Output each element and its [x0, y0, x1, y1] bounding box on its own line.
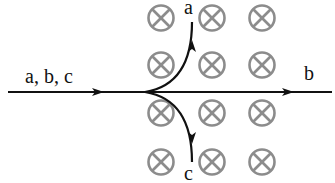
magnetic-field-diagram: a, b, c a b c	[0, 0, 335, 183]
field-into-page-icon	[149, 101, 174, 126]
field-into-page-icon	[149, 150, 174, 175]
field-into-page-icon	[200, 6, 225, 31]
field-into-page-icon	[200, 150, 225, 175]
field-into-page-icon	[250, 101, 275, 126]
particle-b-label: b	[304, 62, 314, 84]
field-into-page-icon	[149, 6, 174, 31]
field-into-page-icon	[200, 101, 225, 126]
particle-c-label: c	[184, 162, 193, 183]
particle-a-label: a	[184, 0, 193, 18]
field-into-page-icon	[250, 150, 275, 175]
field-into-page-icon	[200, 53, 225, 78]
magnetic-field-grid	[149, 6, 275, 175]
field-into-page-icon	[250, 53, 275, 78]
field-into-page-icon	[149, 53, 174, 78]
incoming-label: a, b, c	[25, 65, 73, 87]
field-into-page-icon	[250, 6, 275, 31]
